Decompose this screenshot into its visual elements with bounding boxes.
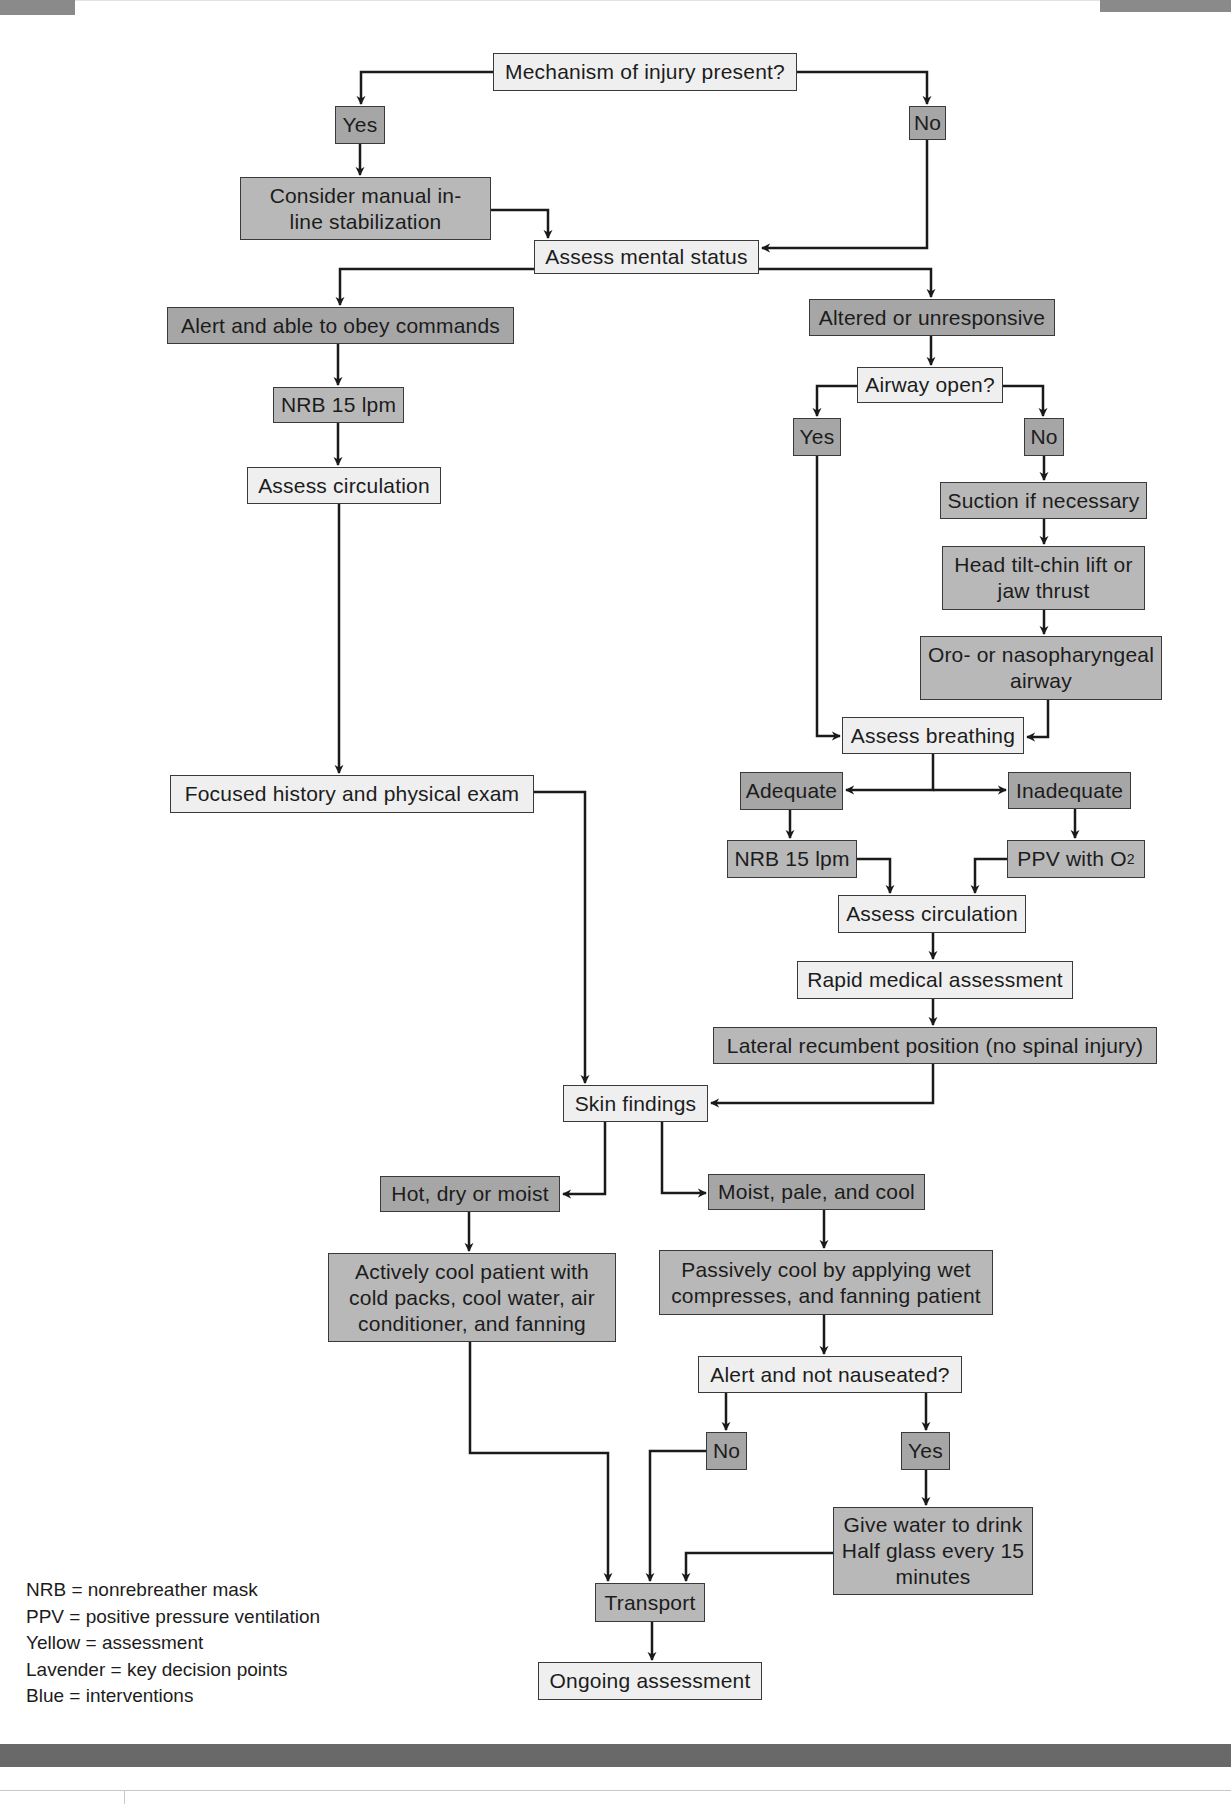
legend-item-lavender: Lavender = key decision points	[26, 1657, 320, 1684]
legend-item-ppv: PPV = positive pressure ventilation	[26, 1604, 320, 1631]
node-mechanism-yes: Yes	[335, 106, 385, 144]
node-ongoing-assessment: Ongoing assessment	[538, 1662, 762, 1700]
node-passively-cool: Passively cool by applying wet compresse…	[659, 1250, 993, 1315]
node-altered-unresponsive: Altered or unresponsive	[809, 299, 1055, 336]
node-nausea-yes: Yes	[901, 1432, 950, 1470]
legend-item-nrb: NRB = nonrebreather mask	[26, 1577, 320, 1604]
node-assess-mental-status: Assess mental status	[534, 240, 759, 274]
node-inadequate: Inadequate	[1008, 772, 1131, 809]
node-moist-pale-cool: Moist, pale, and cool	[708, 1174, 925, 1210]
node-hot-dry-moist: Hot, dry or moist	[380, 1176, 560, 1212]
node-manual-stabilization: Consider manual in-line stabilization	[240, 177, 491, 240]
node-ppv-with-o2: PPV with O2	[1007, 840, 1145, 878]
ppv-label: PPV with O	[1017, 846, 1126, 872]
node-head-tilt: Head tilt-chin lift or jaw thrust	[942, 546, 1145, 610]
node-nrb-left: NRB 15 lpm	[273, 387, 404, 423]
legend-item-blue: Blue = interventions	[26, 1683, 320, 1710]
node-nrb-right: NRB 15 lpm	[727, 840, 857, 878]
node-airway-yes: Yes	[793, 418, 841, 456]
node-assess-breathing: Assess breathing	[842, 717, 1024, 754]
node-skin-findings: Skin findings	[563, 1085, 708, 1122]
node-transport: Transport	[595, 1583, 705, 1622]
bottom-band	[0, 1744, 1231, 1767]
node-adequate: Adequate	[740, 772, 843, 810]
node-suction: Suction if necessary	[940, 482, 1147, 519]
node-nausea-no: No	[706, 1432, 747, 1470]
node-actively-cool: Actively cool patient with cold packs, c…	[328, 1253, 616, 1342]
footer-rule	[0, 1790, 1231, 1791]
node-rapid-medical-assessment: Rapid medical assessment	[797, 961, 1073, 999]
node-focused-history: Focused history and physical exam	[170, 775, 534, 813]
node-lateral-recumbent: Lateral recumbent position (no spinal in…	[713, 1027, 1157, 1064]
legend: NRB = nonrebreather mask PPV = positive …	[26, 1577, 320, 1710]
node-airway-no: No	[1024, 418, 1064, 456]
node-assess-circulation-left: Assess circulation	[247, 467, 441, 504]
node-oro-nasopharyngeal: Oro- or nasopharyngeal airway	[920, 636, 1162, 700]
node-give-water: Give water to drink Half glass every 15 …	[833, 1507, 1033, 1595]
node-mechanism-of-injury: Mechanism of injury present?	[493, 53, 797, 91]
node-assess-circulation-right: Assess circulation	[838, 895, 1026, 933]
legend-item-yellow: Yellow = assessment	[26, 1630, 320, 1657]
footer-tick	[124, 1790, 125, 1804]
node-alert-not-nauseated: Alert and not nauseated?	[698, 1356, 962, 1393]
node-alert-obey-commands: Alert and able to obey commands	[167, 307, 514, 344]
node-mechanism-no: No	[909, 106, 946, 140]
node-airway-open: Airway open?	[857, 367, 1003, 403]
